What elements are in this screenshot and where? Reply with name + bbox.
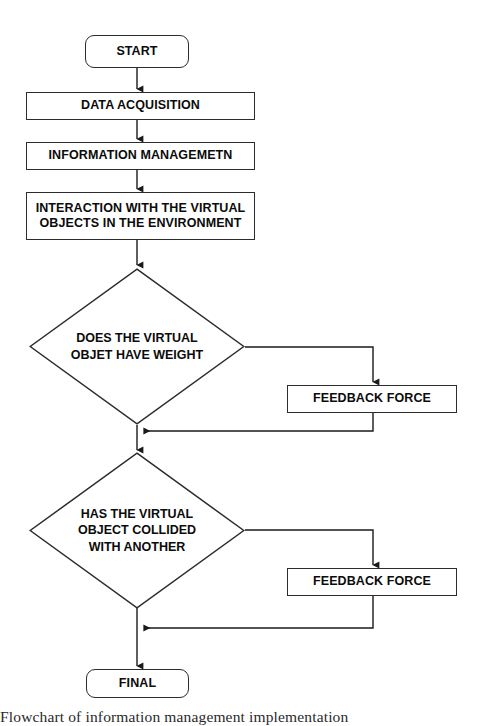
node-start[interactable]: START [85,35,189,68]
node-interaction[interactable]: INTERACTION WITH THE VIRTUAL OBJECTS IN … [26,192,255,240]
figure-caption-text: Flowchart of information management impl… [0,708,348,725]
node-final-label: FINAL [115,676,160,691]
node-feedback-force-2[interactable]: FEEDBACK FORCE [287,568,457,596]
node-decision-weight[interactable]: DOES THE VIRTUAL OBJET HAVE WEIGHT [29,268,245,425]
node-start-label: START [112,44,161,59]
node-data-acquisition-label: DATA ACQUISITION [77,98,204,113]
node-final[interactable]: FINAL [86,669,189,698]
figure-caption: Flowchart of information management impl… [0,708,482,726]
node-information-management[interactable]: INFORMATION MANAGEMETN [26,142,255,170]
node-feedback-force-2-label: FEEDBACK FORCE [309,574,435,589]
node-information-management-label: INFORMATION MANAGEMETN [45,148,237,163]
node-interaction-label: INTERACTION WITH THE VIRTUAL OBJECTS IN … [32,201,250,232]
node-feedback-force-1[interactable]: FEEDBACK FORCE [287,385,457,413]
node-decision-weight-label: DOES THE VIRTUAL OBJET HAVE WEIGHT [71,330,203,363]
node-data-acquisition[interactable]: DATA ACQUISITION [26,92,255,120]
node-decision-collision[interactable]: HAS THE VIRTUAL OBJECT COLLIDED WITH ANO… [29,452,245,609]
node-decision-collision-label: HAS THE VIRTUAL OBJECT COLLIDED WITH ANO… [78,506,196,555]
node-feedback-force-1-label: FEEDBACK FORCE [309,391,435,406]
